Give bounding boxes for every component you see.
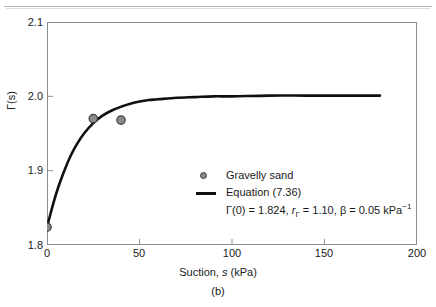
x-axis-ticks xyxy=(140,239,325,245)
legend-parameter-annotation: Γ(0) = 1.824, rΓ = 1.10, β = 0.05 kPa−1 xyxy=(226,200,411,221)
legend-entry-gravelly-sand: Gravelly sand xyxy=(196,168,406,185)
y-axis-title: Γ(s) xyxy=(6,91,17,110)
x-tick-label-0: 0 xyxy=(27,248,67,259)
x-tick-label-200: 200 xyxy=(397,248,436,259)
y-axis-tick-labels: 2.1 2.0 1.9 1.8 xyxy=(0,0,43,307)
legend-marker-circle-icon xyxy=(200,172,207,179)
data-point-marker xyxy=(117,116,125,124)
param-beta-label: β = xyxy=(340,204,356,216)
legend-line-swatch-icon xyxy=(196,192,216,195)
chart-legend: Gravelly sand Equation (7.36) Γ(0) = 1.8… xyxy=(196,168,406,202)
y-axis-ticks xyxy=(47,96,53,170)
legend-label-gravelly-sand: Gravelly sand xyxy=(226,169,293,182)
x-tick-label-150: 150 xyxy=(304,248,344,259)
x-tick-label-50: 50 xyxy=(119,248,159,259)
x-axis-title-units: (kPa) xyxy=(227,266,256,278)
x-axis-title: Suction, s (kPa) xyxy=(0,266,436,278)
param-beta-value: 0.05 xyxy=(359,204,380,216)
legend-label-equation: Equation (7.36) xyxy=(226,186,301,199)
param-gamma0-value: 1.824 xyxy=(258,204,286,216)
y-tick-label-1-9: 1.9 xyxy=(3,165,43,176)
param-r-gamma-subscript: Γ xyxy=(295,210,299,219)
param-r-gamma-value: 1.10 xyxy=(312,204,333,216)
data-point-marker xyxy=(47,223,51,231)
x-tick-label-100: 100 xyxy=(212,248,252,259)
data-point-marker xyxy=(89,114,97,122)
panel-caption: (b) xyxy=(0,285,436,297)
param-gamma0-label: Γ(0) = xyxy=(226,204,255,216)
param-beta-unit: kPa xyxy=(383,204,402,216)
figure-chart: 2.1 2.0 1.9 1.8 Γ(s) 0 50 100 150 200 Su… xyxy=(0,0,436,307)
x-axis-title-pre: Suction, xyxy=(179,266,222,278)
param-beta-unit-exponent: −1 xyxy=(402,202,411,211)
y-tick-label-2-1: 2.1 xyxy=(3,17,43,28)
